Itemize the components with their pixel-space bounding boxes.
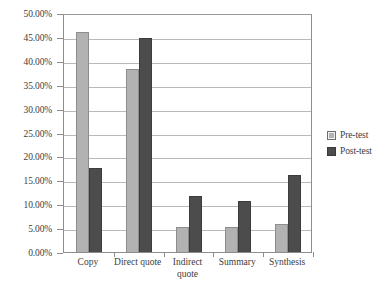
y-axis-tick-label: 25.00%	[24, 129, 52, 139]
legend-swatch-icon	[327, 147, 336, 156]
x-axis-tick-label: Copy	[62, 257, 114, 269]
legend-item-label: Pre-test	[340, 130, 368, 140]
y-axis: 50.00%45.00%40.00%35.00%30.00%25.00%20.0…	[0, 0, 63, 303]
y-axis-tick-label: 15.00%	[24, 176, 52, 186]
x-axis-tick-label: Direct quote	[112, 257, 164, 269]
legend-item-label: Post-test	[340, 146, 372, 156]
y-axis-tick-mark	[57, 253, 63, 254]
y-axis-tick-label: 20.00%	[24, 152, 52, 162]
bar-pre-test	[275, 224, 288, 252]
bar-pre-test	[76, 32, 89, 252]
x-axis-tick-mark	[313, 252, 314, 257]
y-axis-tick-label: 5.00%	[28, 224, 52, 234]
x-axis-tick-label: Synthesis	[261, 257, 313, 269]
bar-pre-test	[126, 69, 139, 252]
y-axis-tick-label: 30.00%	[24, 105, 52, 115]
y-axis-tick-label: 45.00%	[24, 33, 52, 43]
plot-area	[63, 14, 312, 253]
legend: Pre-test Post-test	[327, 127, 372, 159]
bar-chart: 50.00%45.00%40.00%35.00%30.00%25.00%20.0…	[0, 0, 382, 303]
bar-post-test	[89, 168, 102, 252]
legend-item-post-test[interactable]: Post-test	[327, 143, 372, 159]
bars-layer	[64, 15, 311, 252]
legend-swatch-icon	[327, 131, 336, 140]
y-axis-tick-label: 50.00%	[24, 9, 52, 19]
y-axis-tick-label: 40.00%	[24, 57, 52, 67]
x-axis-tick-label: Indirect quote	[162, 257, 214, 280]
y-axis-tick-label: 35.00%	[24, 81, 52, 91]
bar-post-test	[238, 201, 251, 252]
bar-pre-test	[225, 227, 238, 252]
y-axis-tick-label: 10.00%	[24, 200, 52, 210]
bar-post-test	[139, 38, 152, 252]
x-axis: CopyDirect quoteIndirect quoteSummarySyn…	[63, 257, 312, 301]
y-axis-tick-label: 0.00%	[28, 248, 52, 258]
bar-pre-test	[176, 227, 189, 252]
legend-item-pre-test[interactable]: Pre-test	[327, 127, 372, 143]
bar-post-test	[288, 175, 301, 252]
bar-post-test	[189, 196, 202, 252]
x-axis-tick-label: Summary	[211, 257, 263, 269]
